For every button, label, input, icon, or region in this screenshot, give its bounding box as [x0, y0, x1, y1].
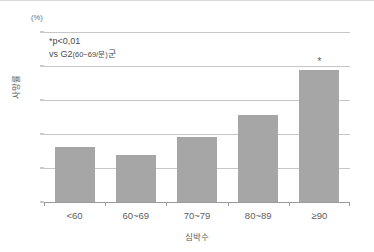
x-tick-mark-4 — [289, 202, 290, 206]
x-tick-label-ge90: ≥90 — [312, 210, 328, 221]
x-tick-label-80-89: 80~89 — [245, 210, 272, 221]
bar-80-89 — [238, 115, 278, 202]
bar-slot-4: * — [289, 32, 350, 202]
significance-asterisk-ge90: * — [317, 57, 321, 67]
bar-70-79 — [177, 137, 217, 202]
bar-slot-2 — [166, 32, 227, 202]
x-axis-line — [44, 202, 350, 203]
x-tick-mark-0 — [44, 202, 45, 206]
x-tick-label-70-79: 70~79 — [184, 210, 211, 221]
x-tick-label-60-69: 60~69 — [122, 210, 149, 221]
bar-ge90 — [299, 70, 339, 202]
x-tick-mark-3 — [228, 202, 229, 206]
figure-top-border — [0, 0, 374, 1]
chart-annotation: *p<0,01 vs G2(60~69/분)군 — [49, 35, 116, 61]
bar-lt60 — [55, 147, 95, 202]
annotation-comparison-suffix: 군 — [108, 49, 116, 59]
y-axis-title: 사망률 — [9, 75, 21, 99]
annotation-comparison-prefix: vs G2 — [49, 49, 73, 59]
y-axis-unit-label: (%) — [31, 13, 43, 22]
annotation-comparison: vs G2(60~69/분)군 — [49, 48, 116, 62]
x-tick-label-lt60: <60 — [67, 210, 83, 221]
annotation-comparison-range: (60~69/분) — [73, 50, 108, 59]
annotation-p-value: *p<0,01 — [49, 35, 116, 48]
bar-60-69 — [116, 155, 156, 202]
bar-slot-3 — [228, 32, 289, 202]
bar-chart-figure: (%) 사망률 50 40 30 20 10 0 — [0, 0, 374, 252]
x-tick-mark-1 — [105, 202, 106, 206]
x-axis-title: 심박수 — [44, 230, 350, 242]
x-tick-mark-2 — [166, 202, 167, 206]
x-tick-mark-5 — [349, 202, 350, 206]
